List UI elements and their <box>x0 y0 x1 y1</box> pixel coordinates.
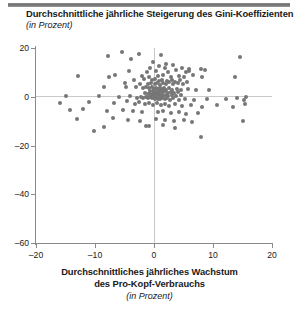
chart-title: Durchschnittliche jährliche Steigerung d… <box>26 8 292 19</box>
scatter-point <box>167 104 171 108</box>
scatter-point <box>176 81 180 85</box>
scatter-point <box>126 118 130 122</box>
scatter-point <box>117 95 121 99</box>
x-tick-mark <box>36 244 37 248</box>
x-axis-caption: Durchschnittliches jährliches Wachstum d… <box>0 266 299 290</box>
scatter-point <box>203 68 207 72</box>
y-tick-label: 0 <box>3 92 29 102</box>
x-tick-mark <box>213 244 214 248</box>
scatter-point <box>76 74 80 78</box>
scatter-point <box>112 101 116 105</box>
scatter-point <box>196 111 200 115</box>
x-axis-caption-sub: (in Prozent) <box>0 291 299 301</box>
y-tick-label: 20 <box>3 43 29 53</box>
scatter-point <box>106 54 110 58</box>
scatter-point <box>183 97 187 101</box>
chart-figure: Durchschnittliche jährliche Steigerung d… <box>0 0 299 309</box>
y-tick-label: –20 <box>3 141 29 151</box>
scatter-point <box>185 80 189 84</box>
scatter-point <box>184 112 188 116</box>
scatter-point <box>133 102 137 106</box>
scatter-point <box>192 98 196 102</box>
scatter-point <box>159 53 163 57</box>
scatter-point <box>171 63 175 67</box>
chart-subtitle: (in Prozent) <box>26 20 73 31</box>
scatter-point <box>102 85 106 89</box>
scatter-point <box>177 74 181 78</box>
scatter-point <box>123 81 127 85</box>
scatter-point <box>177 110 181 114</box>
scatter-point <box>163 118 167 122</box>
scatter-point <box>140 110 144 114</box>
scatter-point <box>205 97 209 101</box>
scatter-point <box>190 120 194 124</box>
scatter-point <box>134 85 138 89</box>
scatter-point <box>113 73 117 77</box>
scatter-point <box>186 87 190 91</box>
scatter-point <box>143 102 147 106</box>
scatter-point <box>156 110 160 114</box>
scatter-point <box>64 94 68 98</box>
scatter-point <box>107 75 111 79</box>
scatter-point <box>174 68 178 72</box>
scatter-point <box>151 60 155 64</box>
x-axis-caption-line1: Durchschnittliches jährliches Wachstum <box>61 266 238 277</box>
scatter-point <box>231 105 235 109</box>
scatter-point <box>145 70 149 74</box>
scatter-point <box>200 75 204 79</box>
scatter-point <box>127 69 131 73</box>
scatter-point <box>181 82 185 86</box>
scatter-point <box>161 73 165 77</box>
scatter-point <box>154 117 158 121</box>
y-tick-label: –40 <box>3 189 29 199</box>
scatter-point <box>171 82 175 86</box>
scatter-point <box>224 97 228 101</box>
scatter-point <box>194 88 198 92</box>
x-tick-label: 0 <box>137 250 171 260</box>
scatter-point <box>199 67 203 71</box>
x-tick-mark <box>95 244 96 248</box>
scatter-point <box>97 94 101 98</box>
scatter-point <box>161 123 165 127</box>
scatter-point <box>243 102 247 106</box>
scatter-point <box>215 103 219 107</box>
scatter-point <box>238 55 242 59</box>
scatter-point <box>164 62 168 66</box>
scatter-plot-area <box>36 48 272 243</box>
scatter-point <box>189 103 193 107</box>
x-tick-label: –20 <box>19 250 53 260</box>
scatter-point <box>187 69 191 73</box>
scatter-point <box>199 135 203 139</box>
scatter-point <box>142 77 146 81</box>
scatter-point <box>105 109 109 113</box>
scatter-point <box>128 94 132 98</box>
scatter-point <box>180 104 184 108</box>
scatter-point <box>121 108 125 112</box>
scatter-point <box>111 116 115 120</box>
scatter-point <box>132 78 136 82</box>
scatter-point <box>235 96 239 100</box>
scatter-point <box>173 126 177 130</box>
scatter-point <box>241 119 245 123</box>
scatter-point <box>157 64 161 68</box>
scatter-point <box>173 102 177 106</box>
scatter-point <box>171 96 175 100</box>
scatter-point <box>169 111 173 115</box>
scatter-point <box>147 124 151 128</box>
scatter-point <box>191 73 195 77</box>
scatter-point <box>131 109 135 113</box>
scatter-point <box>92 129 96 133</box>
scatter-point <box>154 69 158 73</box>
scatter-point <box>137 100 141 104</box>
x-tick-label: 10 <box>196 250 230 260</box>
scatter-point <box>200 105 204 109</box>
scatter-point <box>125 99 129 103</box>
x-tick-mark <box>272 244 273 248</box>
scatter-point <box>138 119 142 123</box>
header-rule <box>8 3 290 7</box>
scatter-point <box>148 66 152 70</box>
scatter-point <box>129 57 133 61</box>
scatter-point <box>166 70 170 74</box>
y-tick-label: –60 <box>3 238 29 248</box>
scatter-point <box>172 119 176 123</box>
